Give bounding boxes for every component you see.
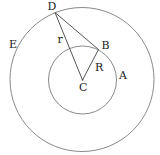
- label-e: E: [9, 38, 17, 51]
- label-a: A: [118, 69, 128, 82]
- label-r-capital: R: [95, 61, 104, 74]
- label-d: D: [48, 0, 57, 13]
- geometry-diagram: D E B r R A C: [0, 0, 160, 155]
- label-b: B: [102, 39, 110, 52]
- label-c: C: [79, 81, 87, 94]
- label-r-small: r: [58, 33, 64, 46]
